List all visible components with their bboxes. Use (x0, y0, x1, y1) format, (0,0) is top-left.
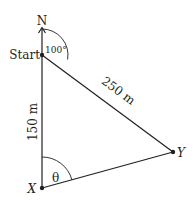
y-label: Y (177, 146, 186, 160)
side-start-y (42, 55, 173, 152)
theta-label: θ (52, 171, 59, 185)
y-point (171, 150, 175, 154)
side-start-x-label: 150 m (26, 102, 40, 141)
side-x-y (42, 152, 173, 188)
side-start-y-label: 250 m (99, 74, 138, 108)
bearing-diagram: N 100° θ Start X Y 150 m 250 m (0, 0, 194, 204)
x-point (40, 186, 44, 190)
start-label: Start (9, 48, 40, 62)
start-point (40, 53, 44, 57)
x-label: X (26, 182, 36, 196)
north-label: N (37, 14, 48, 28)
bearing-angle-label: 100° (45, 45, 67, 55)
